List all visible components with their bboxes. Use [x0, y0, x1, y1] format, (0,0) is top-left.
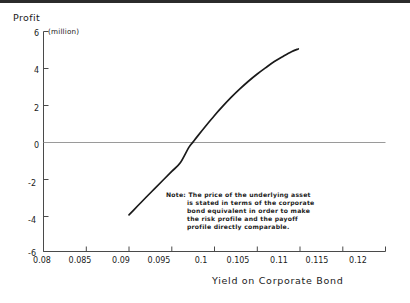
- x-tick-label: 0.105: [218, 256, 258, 265]
- y-axis-ticks: [44, 32, 49, 252]
- profit-curve: [129, 49, 298, 215]
- note-line: the risk profile and the payoff: [166, 215, 314, 223]
- y-tick-label: 4: [17, 66, 39, 75]
- x-tick-label: 0.095: [139, 256, 179, 265]
- x-tick-label: 0.11: [259, 256, 299, 265]
- y-tick-label: 0: [17, 141, 39, 150]
- chart-note-annotation: Note: The price of the underlying asset …: [166, 191, 314, 231]
- note-line: is stated in terms of the corporate: [166, 199, 314, 207]
- y-axis-units-label: (million): [48, 27, 79, 36]
- top-rule-divider: [0, 0, 410, 3]
- note-line: profile directly comparable.: [166, 223, 314, 231]
- x-tick-label: 0.08: [22, 256, 62, 265]
- x-axis-ticks: [44, 247, 386, 252]
- y-tick-label: 6: [17, 29, 39, 38]
- note-line: bond equivalent in order to make: [166, 207, 314, 215]
- x-tick-label: 0.12: [338, 256, 378, 265]
- x-tick-label: 0.115: [297, 256, 337, 265]
- chart-figure: Profit (million) Yield on Corporate Bond…: [0, 0, 410, 303]
- x-tick-label: 0.09: [101, 256, 141, 265]
- y-axis-title: Profit: [13, 12, 40, 23]
- y-tick-label: -2: [14, 179, 36, 188]
- note-line: Note: The price of the underlying asset: [166, 191, 314, 199]
- x-axis-title: Yield on Corporate Bond: [212, 275, 343, 286]
- y-tick-label: -4: [14, 216, 36, 225]
- y-tick-label: 2: [17, 104, 39, 113]
- x-tick-label: 0.085: [60, 256, 100, 265]
- x-tick-label: 0.1: [181, 256, 221, 265]
